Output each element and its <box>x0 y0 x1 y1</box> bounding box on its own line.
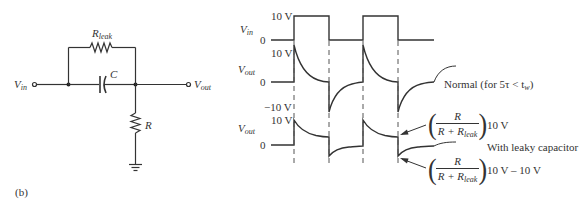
close-paren: ) <box>478 155 487 184</box>
vin-axis-label: Vin <box>240 24 253 37</box>
vin-low-label: 0 <box>260 35 266 46</box>
resistor-label: R <box>145 120 152 131</box>
vout-leaky-waveform <box>271 120 434 156</box>
formula-denominator: R + Rleak <box>438 169 478 184</box>
output-label: Vout <box>194 79 211 92</box>
vout-normal-low-label: −10 V <box>264 102 292 113</box>
input-label: Vin <box>14 79 27 92</box>
close-paren: ) <box>478 110 487 139</box>
vout-leaky-zero-label: 0 <box>260 140 266 151</box>
vin-waveform <box>271 16 434 40</box>
formula-denominator: R + Rleak <box>438 124 478 139</box>
formula-suffix: 10 V – 10 V <box>487 164 541 176</box>
formula-suffix: 10 V <box>487 119 509 131</box>
circuit <box>33 43 191 171</box>
leak-resistor-icon <box>90 43 112 52</box>
formula-numerator: R <box>436 110 480 124</box>
normal-annotation: Normal (for 5τ < tw) <box>444 79 533 92</box>
waveforms <box>271 16 434 156</box>
input-terminal-icon <box>33 83 37 87</box>
formula-numerator: R <box>436 155 480 169</box>
vout-normal-waveform <box>271 45 434 112</box>
arrow-top-head-icon <box>400 130 409 136</box>
edge-guides <box>294 41 398 163</box>
vout-normal-zero-label: 0 <box>260 77 266 88</box>
formula-leaky-peak: ( R R + Rleak ) 10 V <box>428 110 509 139</box>
formula-leaky-negative: ( R R + Rleak ) 10 V – 10 V <box>428 155 541 184</box>
vout-leaky-axis-label: Vout <box>238 123 255 136</box>
leak-resistor-label: Rleak <box>92 28 112 41</box>
vout-leaky-high-label: 10 V <box>271 115 293 126</box>
output-terminal-icon <box>187 83 191 87</box>
figure-label: (b) <box>15 187 28 198</box>
ground-icon <box>129 165 142 171</box>
vout-normal-high-label: 10 V <box>271 48 293 59</box>
vout-normal-axis-label: Vout <box>238 64 255 77</box>
arrow-bottom-head-icon <box>400 158 409 164</box>
leaky-annotation: With leaky capacitor <box>487 142 578 153</box>
resistor-icon <box>131 113 140 133</box>
open-paren: ( <box>428 155 437 184</box>
capacitor-label: C <box>110 69 117 80</box>
open-paren: ( <box>428 110 437 139</box>
vin-high-label: 10 V <box>271 11 293 22</box>
leaky-pointer-curve <box>434 142 456 146</box>
